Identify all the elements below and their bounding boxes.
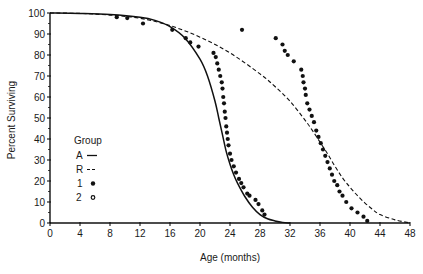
legend-label-r: R [76, 164, 83, 175]
data-point-group-2 [319, 141, 323, 145]
data-point-group-2 [330, 173, 334, 177]
data-point-group-2 [316, 135, 320, 139]
data-point-group-1 [211, 51, 215, 55]
data-point-group-1 [125, 16, 129, 20]
data-point-group-1 [214, 55, 218, 59]
data-point-group-2 [286, 53, 290, 57]
data-point-group-2 [299, 68, 303, 72]
x-tick-label: 44 [374, 228, 386, 239]
data-point-group-2 [314, 129, 318, 133]
data-point-group-2 [310, 114, 314, 118]
data-point-group-1 [196, 45, 200, 49]
data-point-group-1 [228, 152, 232, 156]
data-point-group-2 [335, 183, 339, 187]
data-point-group-1 [260, 208, 264, 212]
data-point-group-1 [226, 143, 230, 147]
y-axis: 0102030405060708090100 [28, 8, 51, 229]
y-tick-label: 40 [34, 134, 46, 145]
y-tick-label: 10 [34, 197, 46, 208]
series-lines [50, 13, 410, 223]
legend-title: Group [74, 135, 102, 146]
data-point-group-2 [312, 120, 316, 124]
y-tick-label: 100 [28, 8, 45, 19]
data-point-group-1 [239, 181, 243, 185]
y-axis-label: Percent Surviving [6, 81, 17, 159]
x-tick-label: 48 [404, 228, 416, 239]
x-tick-label: 32 [284, 228, 296, 239]
data-point-group-1 [241, 185, 245, 189]
data-point-group-2 [301, 80, 305, 84]
y-tick-label: 0 [39, 218, 45, 229]
data-point-group-1 [256, 202, 260, 206]
legend-label-a: A [76, 150, 83, 161]
data-point-group-2 [307, 108, 311, 112]
data-point-group-1 [237, 177, 241, 181]
x-tick-label: 4 [77, 228, 83, 239]
data-point-group-1 [221, 95, 225, 99]
data-point-group-2 [283, 49, 287, 53]
data-point-group-2 [344, 200, 348, 204]
legend-label-1: 1 [77, 178, 83, 189]
data-point-group-2 [303, 87, 307, 91]
data-point-group-2 [304, 93, 308, 97]
data-point-group-2 [340, 194, 344, 198]
x-tick-label: 12 [134, 228, 146, 239]
data-point-group-2 [365, 219, 369, 223]
x-tick-label: 20 [194, 228, 206, 239]
data-point-group-1 [262, 213, 266, 217]
x-tick-label: 28 [254, 228, 266, 239]
data-point-group-1 [226, 137, 230, 141]
data-point-group-1 [170, 28, 174, 32]
data-point-group-1 [220, 87, 224, 91]
data-point-group-1 [232, 164, 236, 168]
y-tick-label: 30 [34, 155, 46, 166]
data-point-group-2 [301, 74, 305, 78]
data-point-group-1 [215, 61, 219, 65]
y-tick-label: 20 [34, 176, 46, 187]
data-point-group-1 [229, 158, 233, 162]
data-point-group-1 [188, 40, 192, 44]
x-tick-label: 40 [344, 228, 356, 239]
data-point-group-2 [325, 160, 329, 164]
data-point-group-1 [218, 74, 222, 78]
data-point-group-1 [247, 194, 251, 198]
data-point-group-1 [141, 21, 145, 25]
data-point-group-2 [305, 101, 309, 105]
legend-open-dot-icon [91, 196, 95, 200]
data-point-group-1 [115, 15, 119, 19]
data-point-group-2 [337, 189, 341, 193]
survival-chart: 0102030405060708090100 04812162024283236… [0, 0, 423, 274]
data-point-group-2 [323, 154, 327, 158]
y-tick-label: 60 [34, 92, 46, 103]
x-axis: 04812162024283236404448 [47, 222, 416, 239]
legend-label-2: 2 [76, 192, 82, 203]
data-point-group-1 [220, 80, 224, 84]
data-point-group-2 [274, 36, 278, 40]
legend-filled-dot-icon [91, 181, 95, 185]
series-line-a [50, 13, 290, 223]
data-point-group-1 [225, 131, 229, 135]
y-tick-label: 90 [34, 29, 46, 40]
x-tick-label: 36 [314, 228, 326, 239]
data-point-group-1 [223, 110, 227, 114]
series-line-r [50, 13, 410, 223]
x-tick-label: 8 [107, 228, 113, 239]
data-point-group-2 [292, 59, 296, 63]
data-point-group-2 [240, 28, 244, 32]
data-point-group-2 [280, 42, 284, 46]
data-point-group-1 [253, 198, 257, 202]
legend: Group A R 1 2 [74, 135, 102, 203]
y-tick-label: 50 [34, 113, 46, 124]
x-tick-label: 16 [164, 228, 176, 239]
data-point-group-2 [332, 179, 336, 183]
data-point-group-2 [361, 215, 365, 219]
data-point-group-2 [328, 166, 332, 170]
data-point-group-1 [223, 116, 227, 120]
data-point-group-2 [349, 206, 353, 210]
data-point-group-1 [224, 124, 228, 128]
data-point-group-1 [217, 68, 221, 72]
x-tick-label: 0 [47, 228, 53, 239]
data-point-group-2 [355, 210, 359, 214]
y-tick-label: 80 [34, 50, 46, 61]
data-point-group-1 [222, 101, 226, 105]
